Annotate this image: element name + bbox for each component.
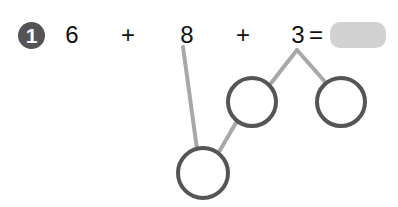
line-3-to-right <box>297 50 327 84</box>
line-8-to-bottom <box>183 47 197 149</box>
line-left-to-bottom <box>219 121 237 152</box>
circle-top-right[interactable] <box>317 78 365 126</box>
number-bond-diagram <box>0 0 398 207</box>
circle-top-left[interactable] <box>228 78 276 126</box>
circle-bottom[interactable] <box>178 148 228 198</box>
line-3-to-left <box>268 50 297 87</box>
